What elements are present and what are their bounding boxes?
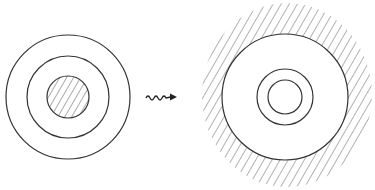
diagram-canvas xyxy=(0,0,375,190)
wavy-arrow-icon xyxy=(146,94,177,101)
diagram-svg xyxy=(0,0,375,190)
right-figure xyxy=(195,0,375,190)
left-figure xyxy=(6,35,130,159)
left-inner-hatched-circle xyxy=(47,76,89,118)
